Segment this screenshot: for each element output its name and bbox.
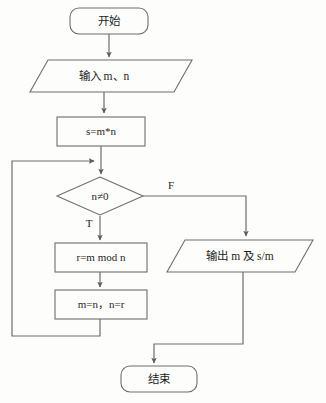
condition-label: n≠0 <box>91 190 109 202</box>
output-label: 输出 m 及 s/m <box>206 249 273 262</box>
assign-s-label: s=m*n <box>86 125 117 137</box>
node-start[interactable]: 开始 <box>70 8 148 34</box>
start-label: 开始 <box>98 14 121 27</box>
node-input[interactable]: 输入 m、n <box>30 60 192 92</box>
flowchart-svg: 开始 输入 m、n s=m*n n≠0 r=m mod n m=n，n=r <box>0 0 326 403</box>
mod-label: r=m mod n <box>77 251 126 263</box>
flowchart-canvas: 开始 输入 m、n s=m*n n≠0 r=m mod n m=n，n=r <box>0 0 326 403</box>
node-mod[interactable]: r=m mod n <box>55 243 147 272</box>
node-end[interactable]: 结束 <box>121 366 197 392</box>
node-assign-s[interactable]: s=m*n <box>57 117 145 146</box>
input-label: 输入 m、n <box>79 69 130 82</box>
node-swap[interactable]: m=n，n=r <box>55 290 147 319</box>
node-condition[interactable]: n≠0 <box>57 177 143 215</box>
node-output[interactable]: 输出 m 及 s/m <box>167 240 313 272</box>
swap-label: m=n，n=r <box>78 298 125 310</box>
edge-output-to-end <box>154 272 243 363</box>
branch-label-true: T <box>86 217 93 229</box>
edge-condition-false-to-output <box>143 196 246 236</box>
end-label: 结束 <box>148 373 171 385</box>
branch-label-false: F <box>168 179 174 191</box>
